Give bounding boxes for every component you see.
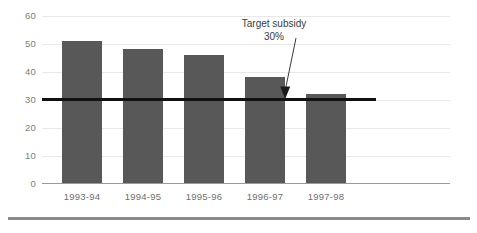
annotation-line-1: Target subsidy bbox=[242, 18, 306, 29]
y-tick-label-0: 0 bbox=[2, 179, 36, 189]
x-axis: 1993-94 1994-95 1995-96 1996-97 1997-98 bbox=[42, 192, 450, 208]
annotation-arrow-icon bbox=[270, 36, 306, 102]
y-tick-label-20: 20 bbox=[2, 123, 36, 133]
bar-1995-96 bbox=[184, 55, 224, 183]
bottom-divider bbox=[8, 217, 470, 220]
y-tick-label-60: 60 bbox=[2, 11, 36, 21]
chart-page: 60 50 40 30 20 10 0 Target sub bbox=[0, 0, 477, 233]
x-tick-label-1997-98: 1997-98 bbox=[291, 192, 361, 202]
x-tick-label-1994-95: 1994-95 bbox=[108, 192, 178, 202]
y-tick-label-30: 30 bbox=[2, 95, 36, 105]
axis-baseline bbox=[42, 183, 450, 184]
bar-1993-94 bbox=[62, 41, 102, 183]
x-tick-label-1996-97: 1996-97 bbox=[230, 192, 300, 202]
gridline-40 bbox=[42, 72, 450, 73]
bar-1997-98 bbox=[306, 94, 346, 183]
target-subsidy-line bbox=[42, 98, 376, 101]
bar-1994-95 bbox=[123, 49, 163, 183]
y-tick-label-10: 10 bbox=[2, 151, 36, 161]
gridline-50 bbox=[42, 44, 450, 45]
x-tick-label-1995-96: 1995-96 bbox=[169, 192, 239, 202]
gridline-60 bbox=[42, 16, 450, 17]
x-tick-label-1993-94: 1993-94 bbox=[47, 192, 117, 202]
y-tick-label-50: 50 bbox=[2, 39, 36, 49]
y-axis: 60 50 40 30 20 10 0 bbox=[0, 16, 36, 184]
y-tick-label-40: 40 bbox=[2, 67, 36, 77]
bar-chart: 60 50 40 30 20 10 0 Target sub bbox=[0, 0, 477, 233]
